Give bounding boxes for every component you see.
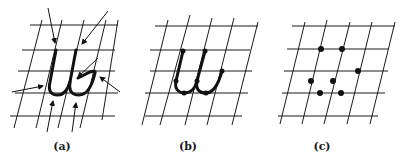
grid-c bbox=[278, 20, 395, 124]
arrows-a bbox=[12, 8, 120, 132]
panel-c bbox=[278, 20, 395, 124]
caption-a: (a) bbox=[53, 140, 71, 153]
figure-svg bbox=[0, 0, 401, 158]
grid-a bbox=[10, 20, 118, 128]
figure: (a) (b) (c) bbox=[0, 0, 401, 158]
panel-b bbox=[142, 15, 258, 125]
letter-w-stroke-b bbox=[176, 51, 222, 93]
caption-c: (c) bbox=[313, 140, 330, 153]
panel-a bbox=[10, 8, 120, 132]
letter-w-stroke-a bbox=[49, 50, 95, 95]
caption-b: (b) bbox=[179, 140, 197, 153]
